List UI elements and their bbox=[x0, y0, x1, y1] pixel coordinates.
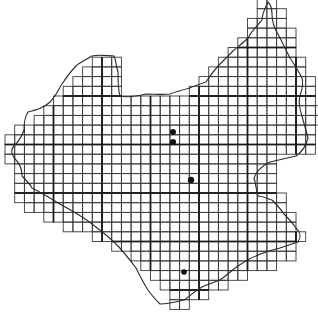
grid-cell bbox=[24, 203, 34, 213]
grid-cell bbox=[44, 174, 54, 184]
grid-cell bbox=[63, 222, 73, 232]
grid-cell bbox=[286, 106, 296, 116]
grid-cell bbox=[228, 48, 238, 58]
grid-cell bbox=[73, 77, 83, 87]
grid-cell bbox=[73, 183, 83, 193]
grid-cell bbox=[267, 222, 277, 232]
grid-cell bbox=[277, 28, 287, 38]
grid-cell bbox=[257, 261, 267, 271]
grid-cell bbox=[44, 212, 54, 222]
grid-cell bbox=[131, 193, 141, 203]
grid-cell bbox=[238, 154, 248, 164]
distribution-map bbox=[0, 0, 318, 318]
grid-cell bbox=[218, 67, 228, 77]
grid-cell bbox=[267, 67, 277, 77]
grid-cell bbox=[44, 203, 54, 213]
grid-cell bbox=[257, 212, 267, 222]
grid-cell bbox=[218, 77, 228, 87]
grid-cell bbox=[209, 271, 219, 281]
grid-cell bbox=[92, 125, 102, 135]
grid-cell bbox=[189, 251, 199, 261]
grid-cell bbox=[131, 154, 141, 164]
grid-cell bbox=[306, 106, 316, 116]
grid-cell bbox=[180, 242, 190, 252]
grid-cell bbox=[160, 135, 170, 145]
grid-cell bbox=[238, 164, 248, 174]
grid-cell bbox=[267, 38, 277, 48]
grid-cell bbox=[63, 212, 73, 222]
grid-cell bbox=[199, 242, 209, 252]
grid-cell bbox=[248, 145, 258, 155]
grid-cell bbox=[160, 271, 170, 281]
grid-cell bbox=[141, 203, 151, 213]
grid-cell bbox=[199, 125, 209, 135]
grid-cell bbox=[228, 125, 238, 135]
grid-cell bbox=[112, 115, 122, 125]
grid-cell bbox=[180, 145, 190, 155]
grid-cell bbox=[44, 106, 54, 116]
grid-cell bbox=[209, 77, 219, 87]
grid-cell bbox=[228, 106, 238, 116]
grid-cell bbox=[238, 77, 248, 87]
grid-cell bbox=[257, 38, 267, 48]
grid-cell bbox=[112, 232, 122, 242]
grid-cell bbox=[83, 164, 93, 174]
grid-cell bbox=[54, 154, 64, 164]
grid-cell bbox=[102, 135, 112, 145]
grid-cell bbox=[267, 77, 277, 87]
grid-cell bbox=[228, 242, 238, 252]
grid-cell bbox=[44, 115, 54, 125]
grid-cell bbox=[102, 125, 112, 135]
grid-cell bbox=[189, 183, 199, 193]
grid-cell bbox=[151, 96, 161, 106]
grid-cell bbox=[160, 183, 170, 193]
grid-cell bbox=[73, 145, 83, 155]
grid-cell bbox=[218, 145, 228, 155]
grid-cell bbox=[73, 125, 83, 135]
grid-cell bbox=[141, 183, 151, 193]
grid-cell bbox=[151, 125, 161, 135]
grid-cell bbox=[24, 145, 34, 155]
grid-cell bbox=[199, 174, 209, 184]
grid-cell bbox=[180, 135, 190, 145]
grid-cell bbox=[248, 222, 258, 232]
grid-cell bbox=[238, 232, 248, 242]
grid-cell bbox=[228, 193, 238, 203]
grid-cell bbox=[189, 271, 199, 281]
grid-cell bbox=[112, 193, 122, 203]
grid-cell bbox=[315, 106, 318, 116]
grid-cell bbox=[180, 183, 190, 193]
grid-cell bbox=[257, 242, 267, 252]
grid-cell bbox=[209, 106, 219, 116]
grid-cell bbox=[189, 164, 199, 174]
grid-cell bbox=[34, 115, 44, 125]
grid-cell bbox=[151, 222, 161, 232]
grid-cell bbox=[277, 38, 287, 48]
grid-cell bbox=[277, 135, 287, 145]
grid-cell bbox=[141, 115, 151, 125]
grid-cell bbox=[315, 115, 318, 125]
grid-cell bbox=[121, 222, 131, 232]
grid-cell bbox=[160, 115, 170, 125]
grid-cell bbox=[131, 106, 141, 116]
grid-cell bbox=[218, 96, 228, 106]
grid-cell bbox=[160, 280, 170, 290]
grid-cell bbox=[267, 106, 277, 116]
grid-cell bbox=[267, 115, 277, 125]
grid-cell bbox=[286, 115, 296, 125]
grid-cell bbox=[141, 222, 151, 232]
grid-cell bbox=[218, 174, 228, 184]
grid-cell bbox=[112, 212, 122, 222]
grid-cell bbox=[54, 115, 64, 125]
grid-cell bbox=[160, 222, 170, 232]
grid-cell bbox=[141, 261, 151, 271]
grid-cell bbox=[15, 174, 25, 184]
grid-cell bbox=[277, 48, 287, 58]
grid-cell bbox=[257, 77, 267, 87]
grid-cell bbox=[257, 164, 267, 174]
grid-cell bbox=[151, 154, 161, 164]
grid-cell bbox=[248, 203, 258, 213]
grid-cell bbox=[83, 67, 93, 77]
grid-cell bbox=[199, 115, 209, 125]
grid-cell bbox=[209, 280, 219, 290]
